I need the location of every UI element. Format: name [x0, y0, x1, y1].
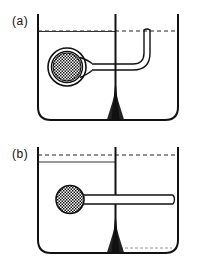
- panel-b: (b): [0, 133, 205, 266]
- hatched-bulb-core-a: [53, 53, 81, 81]
- probe-tube-b: [78, 195, 175, 204]
- panel-a-drawing: [0, 0, 205, 133]
- probe-tube-a: [90, 29, 150, 70]
- partition-base-inner-a: [112, 80, 120, 120]
- partition-base-inner-b: [112, 213, 120, 253]
- hatched-bulb-core-b: [56, 186, 84, 214]
- figure-root: (a): [0, 0, 205, 266]
- tube-open-end-b: [173, 195, 175, 204]
- panel-b-drawing: [0, 133, 205, 266]
- panel-a: (a): [0, 0, 205, 133]
